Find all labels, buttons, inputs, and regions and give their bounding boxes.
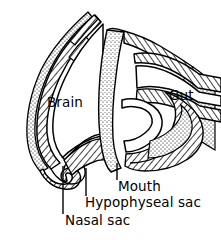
- label-brain: Brain: [47, 96, 83, 110]
- label-mouth: Mouth: [118, 180, 161, 194]
- label-gut: Gut: [169, 89, 194, 103]
- anatomical-diagram: Brain Gut Mouth Hypophyseal sac Nasal sa…: [0, 0, 221, 243]
- label-nasal-sac: Nasal sac: [65, 214, 130, 228]
- label-hypophyseal-sac: Hypophyseal sac: [85, 196, 201, 210]
- hypophyseal-sac-column: [99, 30, 124, 172]
